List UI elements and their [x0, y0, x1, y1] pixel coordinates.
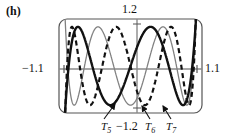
figure-panel: (h) 1.2 −1.1 1.1 −1.2 T5 T6 T7 — [0, 0, 238, 139]
plot-area — [0, 0, 238, 139]
